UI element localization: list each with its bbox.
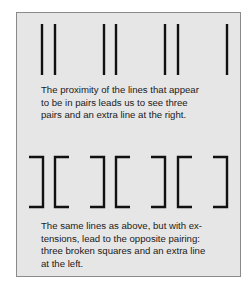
caption-line: tensions, lead to the opposite pairing:: [41, 233, 241, 246]
proximity-lines-figure: [42, 24, 227, 75]
caption-line: pairs and an extra line at the right.: [41, 109, 241, 122]
right-bracket-line: [90, 157, 104, 207]
bracket-lines-figure: [29, 157, 227, 207]
right-bracket-line: [29, 157, 43, 207]
caption-line: The proximity of the lines that appear: [41, 84, 241, 97]
left-bracket-line: [55, 157, 69, 207]
caption-line: at the left.: [41, 258, 241, 271]
caption-line: The same lines as above, but with ex-: [41, 220, 241, 233]
left-bracket-line: [178, 157, 192, 207]
left-bracket-line: [116, 157, 130, 207]
caption-line: to be in pairs leads us to see three: [41, 97, 241, 110]
caption-line: three broken squares and an extra line: [41, 245, 241, 258]
right-bracket-line: [213, 157, 227, 207]
caption-closure: The same lines as above, but with ex- te…: [41, 220, 241, 270]
right-bracket-line: [151, 157, 165, 207]
caption-proximity: The proximity of the lines that appear t…: [41, 84, 241, 122]
